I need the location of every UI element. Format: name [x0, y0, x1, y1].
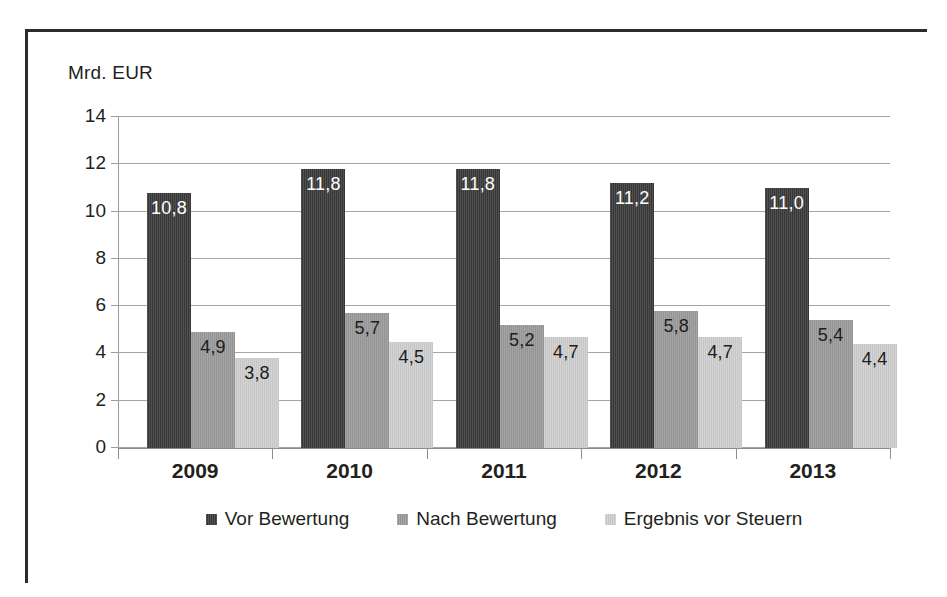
bar-texture — [147, 193, 191, 448]
bar-value-label: 4,7 — [544, 343, 588, 361]
x-axis-tick-mark — [890, 448, 891, 459]
y-axis-tick-mark — [111, 305, 118, 306]
x-axis-tick-mark — [736, 448, 737, 459]
legend-label: Nach Bewertung — [416, 508, 556, 530]
y-axis-tick-mark — [111, 163, 118, 164]
y-axis-unit-label: Mrd. EUR — [68, 62, 153, 84]
bar[interactable]: 3,8 — [235, 358, 279, 448]
bar-value-label: 5,7 — [345, 319, 389, 337]
y-axis-tick-mark — [111, 447, 118, 448]
x-axis-category-label: 2012 — [581, 459, 735, 483]
x-axis-category-label: 2009 — [118, 459, 272, 483]
bar-value-label: 11,0 — [765, 194, 809, 212]
bar[interactable]: 11,2 — [610, 183, 654, 448]
bar-texture — [456, 169, 500, 448]
legend-label: Ergebnis vor Steuern — [624, 508, 803, 530]
bar-chart: Mrd. EUR 0246810121410,84,93,811,85,74,5… — [0, 0, 947, 597]
bar-value-label: 4,4 — [853, 350, 897, 368]
x-axis-category-label: 2010 — [272, 459, 426, 483]
y-axis-tick-label: 6 — [95, 294, 106, 316]
bar[interactable]: 10,8 — [147, 193, 191, 448]
bar[interactable]: 11,8 — [301, 169, 345, 448]
bar-texture — [301, 169, 345, 448]
legend-item[interactable]: Ergebnis vor Steuern — [605, 508, 803, 530]
x-axis-tick-mark — [118, 448, 119, 459]
bar-value-label: 4,5 — [389, 348, 433, 366]
bar-value-label: 5,2 — [500, 331, 544, 349]
bar-group: 11,85,74,5 — [301, 117, 433, 448]
bar[interactable]: 4,7 — [698, 337, 742, 448]
bar[interactable]: 4,9 — [191, 332, 235, 448]
x-axis-line — [118, 448, 890, 449]
bar[interactable]: 4,4 — [853, 344, 897, 448]
bar[interactable]: 4,5 — [389, 342, 433, 448]
bar-value-label: 3,8 — [235, 364, 279, 382]
bar[interactable]: 5,8 — [654, 311, 698, 448]
legend-item[interactable]: Vor Bewertung — [206, 508, 350, 530]
y-axis-tick-mark — [111, 352, 118, 353]
bar-value-label: 11,8 — [301, 175, 345, 193]
y-axis-tick-label: 2 — [95, 389, 106, 411]
bar-group: 11,05,44,4 — [765, 117, 897, 448]
y-axis-tick-label: 8 — [95, 247, 106, 269]
bar-value-label: 11,8 — [456, 175, 500, 193]
y-axis-tick-label: 0 — [95, 436, 106, 458]
bar-value-label: 10,8 — [147, 199, 191, 217]
y-axis-tick-mark — [111, 211, 118, 212]
legend-item[interactable]: Nach Bewertung — [397, 508, 556, 530]
bar-texture — [610, 183, 654, 448]
x-axis-tick-mark — [427, 448, 428, 459]
bar-group: 10,84,93,8 — [147, 117, 279, 448]
bar-value-label: 11,2 — [610, 189, 654, 207]
bar-value-label: 4,7 — [698, 343, 742, 361]
bar-value-label: 4,9 — [191, 338, 235, 356]
x-axis-category-label: 2011 — [427, 459, 581, 483]
plot-area: 0246810121410,84,93,811,85,74,511,85,24,… — [118, 117, 890, 448]
chart-legend: Vor BewertungNach BewertungErgebnis vor … — [118, 508, 890, 530]
y-axis-tick-mark — [111, 258, 118, 259]
bar-texture — [765, 188, 809, 448]
legend-swatch-icon — [605, 514, 616, 525]
y-axis-tick-label: 10 — [85, 200, 106, 222]
y-axis-tick-mark — [111, 400, 118, 401]
x-axis-tick-mark — [272, 448, 273, 459]
bar[interactable]: 11,0 — [765, 188, 809, 448]
y-axis-tick-mark — [111, 116, 118, 117]
bar[interactable]: 5,2 — [500, 325, 544, 448]
legend-swatch-icon — [397, 514, 408, 525]
bar[interactable]: 4,7 — [544, 337, 588, 448]
legend-label: Vor Bewertung — [225, 508, 350, 530]
bar-group: 11,25,84,7 — [610, 117, 742, 448]
y-axis-tick-label: 12 — [85, 152, 106, 174]
bar[interactable]: 5,7 — [345, 313, 389, 448]
bar-value-label: 5,8 — [654, 317, 698, 335]
y-axis-tick-label: 14 — [85, 105, 106, 127]
x-axis-tick-mark — [581, 448, 582, 459]
bar-group: 11,85,24,7 — [456, 117, 588, 448]
bar[interactable]: 5,4 — [809, 320, 853, 448]
legend-swatch-icon — [206, 514, 217, 525]
y-axis-tick-label: 4 — [95, 341, 106, 363]
bar[interactable]: 11,8 — [456, 169, 500, 448]
x-axis-category-label: 2013 — [736, 459, 890, 483]
bar-value-label: 5,4 — [809, 326, 853, 344]
